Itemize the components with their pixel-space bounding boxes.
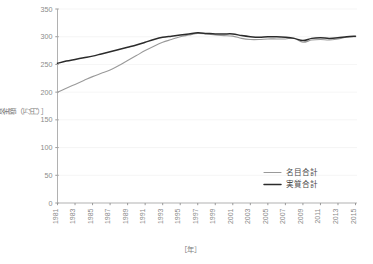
series-line (58, 33, 356, 92)
y-axis-ticks-group: 050100150200250300350 (41, 5, 59, 208)
x-tick-label: 2013 (332, 208, 339, 224)
y-tick-label: 300 (41, 32, 53, 41)
x-tick-label: 1989 (122, 208, 129, 224)
x-tick-label: 1987 (104, 208, 111, 224)
x-tick-label: 1993 (157, 208, 164, 224)
x-tick-label: 2007 (279, 208, 286, 224)
chart-legend: 名目合計実質合計 (264, 167, 318, 189)
x-tick-label: 1997 (192, 208, 199, 224)
x-tick-label: 1983 (69, 208, 76, 224)
x-tick-label: 2005 (262, 208, 269, 224)
x-tick-label: 1981 (52, 208, 59, 224)
series-line (58, 33, 356, 64)
x-tick-label: 2011 (314, 208, 321, 223)
x-tick-label: 2003 (244, 208, 251, 224)
y-axis-title: ［賃金額（万円）］ (0, 108, 47, 117)
y-tick-label: 250 (41, 60, 53, 69)
chart-canvas: 050100150200250300350 198119831985198719… (0, 0, 373, 264)
x-tick-label: 2001 (227, 208, 234, 224)
wage-line-chart: 050100150200250300350 198119831985198719… (0, 0, 373, 264)
y-tick-label: 350 (41, 5, 53, 14)
legend-label: 実質合計 (286, 179, 318, 189)
y-tick-label: 50 (45, 171, 53, 180)
x-tick-label: 1999 (209, 208, 216, 224)
y-tick-label: 0 (49, 199, 53, 208)
x-tick-label: 2009 (297, 208, 304, 224)
x-axis-ticks-group: 1981198319851987198919911993199519971999… (52, 203, 357, 224)
legend-label: 名目合計 (286, 167, 318, 177)
x-tick-label: 2015 (350, 208, 357, 224)
y-tick-label: 100 (41, 143, 53, 152)
x-tick-label: 1995 (174, 208, 181, 224)
x-tick-label: 1985 (87, 208, 94, 224)
series-group (58, 33, 356, 92)
y-tick-label: 200 (41, 88, 53, 97)
x-tick-label: 1991 (139, 208, 146, 224)
x-axis-title: ［年］ (180, 245, 201, 254)
